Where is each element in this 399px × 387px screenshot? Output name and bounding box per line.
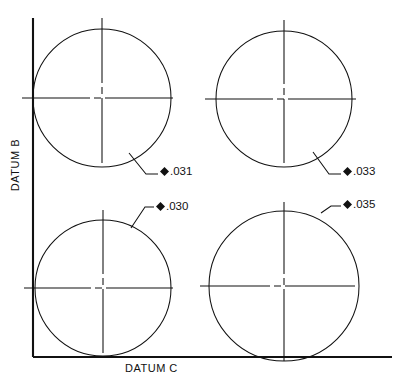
engineering-drawing-canvas: .031 .033 .030 .035 DATUM B DATUM C: [0, 0, 399, 387]
callout-top-left: .031: [160, 166, 192, 178]
leader-bottom-right: [321, 206, 341, 213]
position-tolerance-symbol-icon: [343, 167, 352, 176]
position-tolerance-symbol-icon: [160, 167, 169, 176]
callout-value-top-right: .033: [353, 166, 375, 178]
drawing-vector-layer: [0, 0, 399, 387]
datum-c-label: DATUM C: [125, 363, 178, 374]
callout-bottom-right: .035: [343, 199, 375, 211]
leader-top-right: [313, 152, 341, 174]
leader-top-left: [129, 153, 158, 174]
datum-b-label: DATUM B: [10, 139, 21, 191]
position-tolerance-symbol-icon: [343, 200, 352, 209]
callout-value-bottom-right: .035: [353, 199, 375, 211]
position-tolerance-symbol-icon: [156, 202, 165, 211]
leader-bottom-left: [131, 207, 154, 228]
callout-bottom-left: .030: [156, 201, 188, 213]
callout-top-right: .033: [343, 166, 375, 178]
callout-value-top-left: .031: [170, 166, 192, 178]
callout-value-bottom-left: .030: [166, 201, 188, 213]
